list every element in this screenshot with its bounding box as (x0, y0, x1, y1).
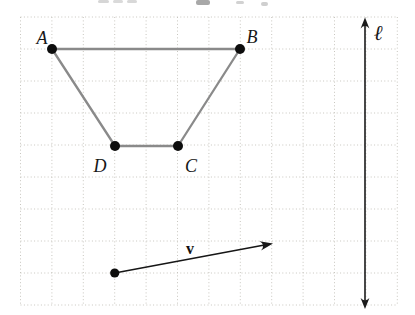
vertex-label-B: B (247, 27, 258, 47)
cropped-text-artifact-4 (236, 1, 244, 4)
geometry-figure: ABCDvℓ (0, 0, 415, 315)
vertex-point-A (47, 44, 57, 54)
vertex-point-C (173, 141, 183, 151)
trapezoid-edge-DA (52, 49, 115, 146)
diagram-svg: ABCDvℓ (0, 0, 415, 315)
vertex-label-A: A (36, 28, 49, 48)
vertex-label-C: C (185, 156, 198, 176)
vector-v-label: v (186, 240, 194, 257)
cropped-text-artifact-1 (113, 0, 123, 3)
cropped-text-artifact-3 (196, 0, 210, 5)
cropped-text-artifact-0 (98, 0, 109, 3)
line-l-label: ℓ (374, 21, 383, 45)
vertex-point-D (110, 141, 120, 151)
vector-v-start-point (110, 268, 119, 277)
cropped-text-artifact-2 (127, 0, 137, 3)
trapezoid-edge-BC (178, 49, 240, 146)
cropped-text-artifact-5 (261, 2, 268, 6)
vertex-label-D: D (93, 156, 107, 176)
vertex-point-B (235, 44, 245, 54)
